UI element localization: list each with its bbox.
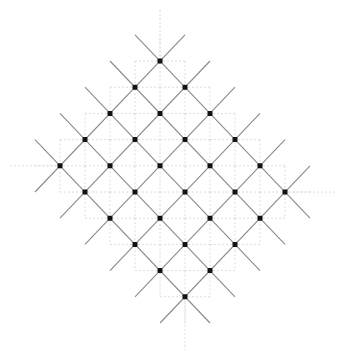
lattice-node <box>208 163 213 168</box>
lattice-diagram <box>0 0 341 357</box>
lattice-node <box>258 163 263 168</box>
lattice-node <box>233 137 238 142</box>
lattice-node <box>283 190 288 195</box>
lattice-node <box>108 216 113 221</box>
lattice-node <box>158 268 163 273</box>
lattice-node <box>208 111 213 116</box>
lattice-node <box>108 163 113 168</box>
lattice-node <box>158 163 163 168</box>
lattice-node <box>83 137 88 142</box>
lattice-node <box>183 85 188 90</box>
lattice-node <box>183 294 188 299</box>
lattice-node <box>183 242 188 247</box>
lattice-node <box>133 137 138 142</box>
lattice-node <box>133 242 138 247</box>
lattice-node <box>133 190 138 195</box>
lattice-node <box>108 111 113 116</box>
lattice-node <box>158 111 163 116</box>
lattice-edges <box>35 35 310 323</box>
lattice-node <box>233 190 238 195</box>
lattice-node <box>83 190 88 195</box>
lattice-node <box>258 216 263 221</box>
lattice-node <box>58 163 63 168</box>
lattice-node <box>158 59 163 64</box>
lattice-node <box>233 242 238 247</box>
lattice-node <box>208 268 213 273</box>
lattice-node <box>133 85 138 90</box>
lattice-node <box>158 216 163 221</box>
lattice-node <box>183 137 188 142</box>
dotted-grid <box>10 10 335 350</box>
lattice-node <box>183 190 188 195</box>
lattice-node <box>208 216 213 221</box>
